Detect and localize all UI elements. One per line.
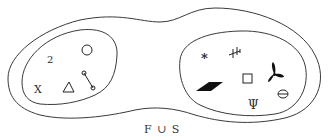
set-s-contour — [180, 31, 307, 116]
parallelogram-icon — [196, 82, 223, 91]
set-union-diagram: 2 X * Ψ F ∪ S — [0, 0, 331, 139]
propeller-icon — [268, 62, 284, 82]
square-icon — [243, 74, 252, 83]
cross-glyph-icon — [229, 47, 240, 58]
asterisk: * — [201, 51, 208, 66]
psi-glyph: Ψ — [248, 98, 259, 112]
circle-icon — [82, 45, 92, 55]
letter-x: X — [34, 83, 42, 96]
numeral-two: 2 — [47, 54, 53, 65]
theta-glyph — [278, 90, 288, 98]
union-label: F ∪ S — [144, 123, 180, 136]
triangle-icon — [63, 82, 74, 92]
line-segment-icon — [82, 71, 95, 90]
